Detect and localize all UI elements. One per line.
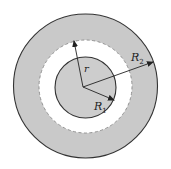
concentric-circles-diagram: r R2 R1	[0, 0, 171, 169]
